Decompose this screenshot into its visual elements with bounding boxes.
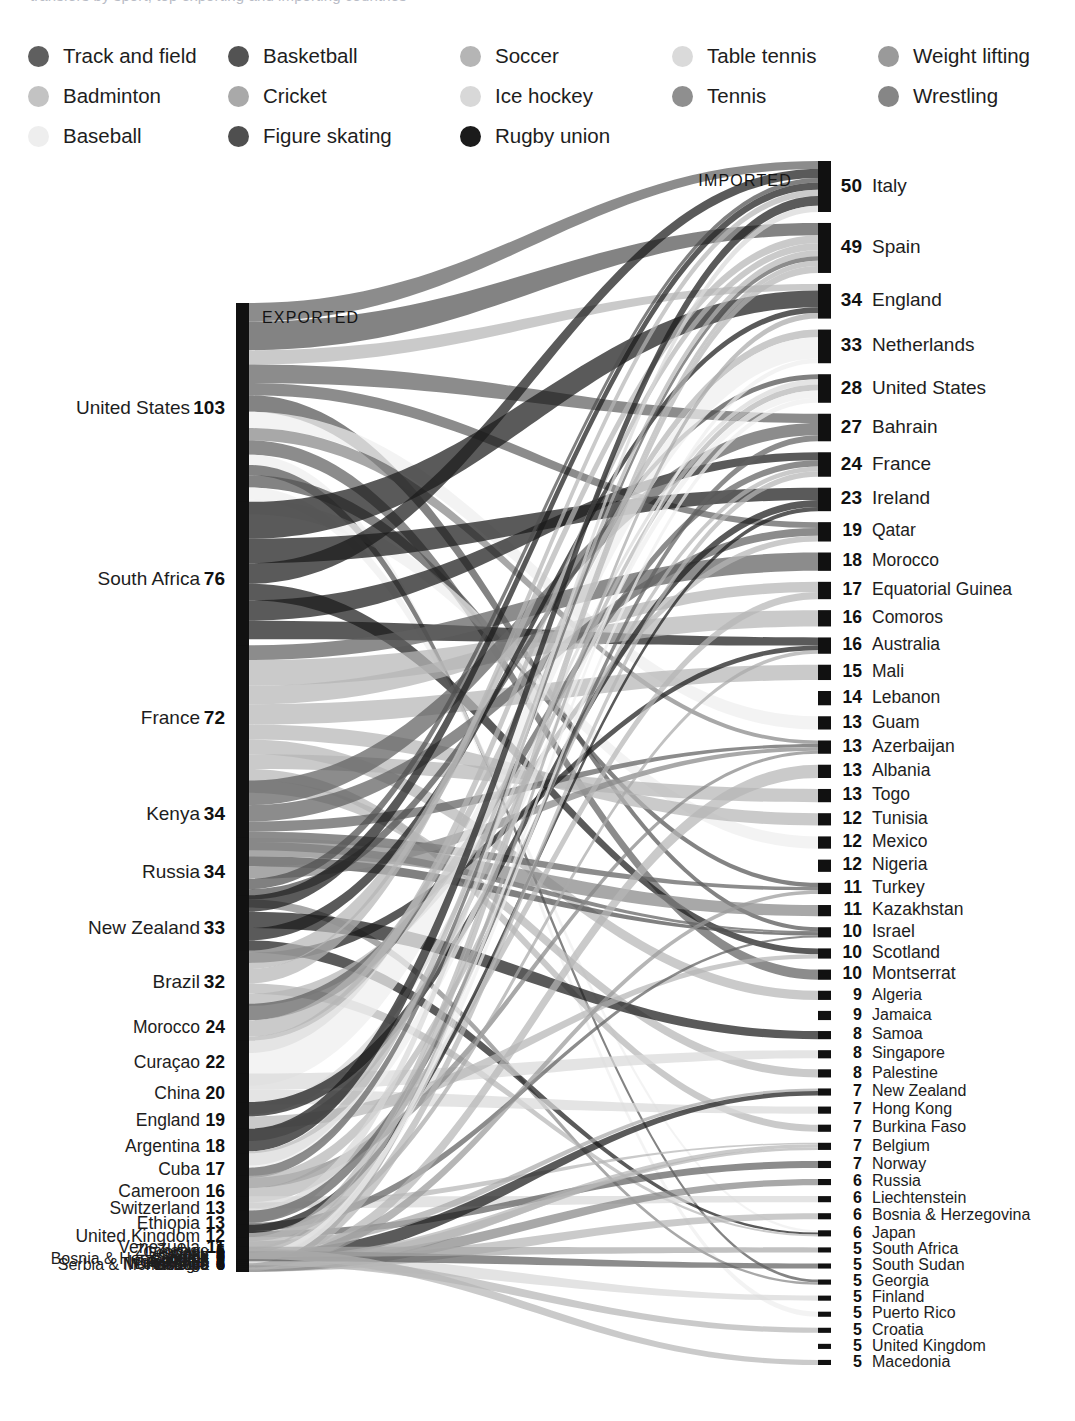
legend-item-basketball[interactable]: Basketball	[228, 46, 358, 67]
target-node-bar[interactable]	[818, 582, 831, 599]
target-node-bar[interactable]	[818, 948, 831, 958]
target-node-bar[interactable]	[818, 1230, 831, 1236]
target-node-bar[interactable]	[818, 1196, 831, 1202]
flow-ribbon[interactable]	[249, 1247, 818, 1257]
target-node[interactable]: 7New Zealand	[818, 1082, 966, 1099]
target-node[interactable]: 6Russia	[818, 1172, 921, 1189]
target-node[interactable]: 13Guam	[818, 712, 920, 732]
target-node[interactable]: 6Bosnia & Herzegovina	[818, 1206, 1030, 1223]
target-node[interactable]: 16Comoros	[818, 607, 943, 627]
target-node[interactable]: 15Mali	[818, 661, 904, 681]
target-node-bar[interactable]	[818, 1031, 831, 1039]
target-node[interactable]: 7Hong Kong	[818, 1100, 952, 1117]
target-node[interactable]: 17Equatorial Guinea	[818, 579, 1012, 599]
legend-item-ice-hockey[interactable]: Ice hockey	[460, 86, 593, 107]
target-node-bar[interactable]	[818, 691, 831, 705]
target-node-bar[interactable]	[818, 1328, 831, 1333]
target-node-bar[interactable]	[818, 452, 831, 476]
target-node[interactable]: 10Scotland	[818, 942, 940, 962]
target-node-bar[interactable]	[818, 1247, 831, 1252]
target-node[interactable]: 6Japan	[818, 1224, 916, 1241]
target-node[interactable]: 49Spain	[818, 223, 921, 273]
source-node[interactable]: 22Curaçao	[134, 1041, 249, 1086]
target-node-bar[interactable]	[818, 1143, 831, 1150]
source-node[interactable]: 103United States	[76, 303, 249, 514]
target-node[interactable]: 23Ireland	[818, 487, 930, 511]
target-node-bar[interactable]	[818, 991, 831, 1000]
target-node-bar[interactable]	[818, 1344, 831, 1349]
target-node-bar[interactable]	[818, 789, 831, 802]
target-node-bar[interactable]	[818, 1069, 831, 1077]
target-node[interactable]: 5South Africa	[818, 1240, 958, 1257]
source-node[interactable]: 5Zimbabwe	[135, 1242, 249, 1259]
target-node-bar[interactable]	[818, 1107, 831, 1114]
target-node[interactable]: 24France	[818, 452, 931, 476]
source-node[interactable]: 34Kenya	[146, 781, 249, 851]
target-node[interactable]: 34England	[818, 284, 942, 319]
legend-item-rugby-union[interactable]: Rugby union	[460, 126, 610, 147]
target-node-bar[interactable]	[818, 860, 831, 872]
target-node-bar[interactable]	[818, 637, 831, 653]
target-node[interactable]: 8Singapore	[818, 1044, 945, 1061]
target-node-bar[interactable]	[818, 522, 831, 541]
target-node-bar[interactable]	[818, 1050, 831, 1058]
target-node-bar[interactable]	[818, 1088, 831, 1095]
target-node[interactable]: 7Norway	[818, 1155, 926, 1172]
target-node-bar[interactable]	[818, 1179, 831, 1185]
target-node[interactable]: 14Lebanon	[818, 687, 940, 707]
legend-item-track-and-field[interactable]: Track and field	[28, 46, 197, 67]
target-node-bar[interactable]	[818, 765, 831, 778]
target-node[interactable]: 12Tunisia	[818, 808, 928, 828]
target-node[interactable]: 5South Sudan	[818, 1256, 965, 1273]
target-node[interactable]: 5Puerto Rico	[818, 1304, 956, 1321]
source-node[interactable]: 34Russia	[142, 838, 249, 908]
target-node[interactable]: 5Macedonia	[818, 1353, 950, 1370]
target-node[interactable]: 11Turkey	[818, 877, 925, 897]
target-node-bar[interactable]	[818, 223, 831, 273]
legend-item-tennis[interactable]: Tennis	[672, 86, 766, 107]
target-node[interactable]: 8Samoa	[818, 1025, 923, 1042]
target-node-bar[interactable]	[818, 161, 831, 212]
target-node-bar[interactable]	[818, 610, 831, 626]
target-node[interactable]: 18Morocco	[818, 550, 939, 571]
target-node[interactable]: 16Australia	[818, 634, 940, 654]
legend-item-badminton[interactable]: Badminton	[28, 86, 161, 107]
target-node[interactable]: 19Qatar	[818, 520, 916, 541]
target-node-bar[interactable]	[818, 488, 831, 511]
target-node-bar[interactable]	[818, 836, 831, 848]
target-node[interactable]: 28United States	[818, 374, 986, 403]
target-node-bar[interactable]	[818, 284, 831, 319]
target-node-bar[interactable]	[818, 1296, 831, 1301]
source-node[interactable]: 72France	[141, 645, 249, 793]
target-node[interactable]: 33Netherlands	[818, 330, 974, 364]
legend-item-wrestling[interactable]: Wrestling	[878, 86, 998, 107]
source-node-bar[interactable]	[236, 645, 249, 793]
legend-item-baseball[interactable]: Baseball	[28, 126, 142, 147]
target-node[interactable]: 12Mexico	[818, 831, 927, 851]
target-node-bar[interactable]	[818, 716, 831, 729]
target-node-bar[interactable]	[818, 970, 831, 980]
legend-item-table-tennis[interactable]: Table tennis	[672, 46, 816, 67]
target-node-bar[interactable]	[818, 813, 831, 825]
target-node-bar[interactable]	[818, 927, 831, 937]
target-node-bar[interactable]	[818, 414, 831, 442]
target-node[interactable]: 13Albania	[818, 760, 931, 780]
target-node[interactable]: 10Israel	[818, 921, 915, 941]
target-node-bar[interactable]	[818, 374, 831, 403]
target-node[interactable]: 9Algeria	[818, 986, 922, 1003]
target-node-bar[interactable]	[818, 1263, 831, 1268]
source-node[interactable]: 24Morocco	[133, 1004, 249, 1053]
source-node[interactable]: 32Brazil	[152, 951, 249, 1017]
target-node[interactable]: 6Liechtenstein	[818, 1189, 966, 1206]
target-node[interactable]: 7Burkina Faso	[818, 1118, 966, 1135]
target-node-bar[interactable]	[818, 1011, 831, 1020]
target-node[interactable]: 13Togo	[818, 784, 910, 804]
target-node[interactable]: 12Nigeria	[818, 854, 928, 874]
target-node-bar[interactable]	[818, 553, 831, 571]
target-node[interactable]: 5United Kingdom	[818, 1337, 986, 1354]
target-node-bar[interactable]	[818, 740, 831, 753]
source-node-bar[interactable]	[236, 502, 249, 658]
target-node-bar[interactable]	[818, 1161, 831, 1168]
target-node-bar[interactable]	[818, 1280, 831, 1285]
target-node[interactable]: 27Bahrain	[818, 414, 938, 442]
